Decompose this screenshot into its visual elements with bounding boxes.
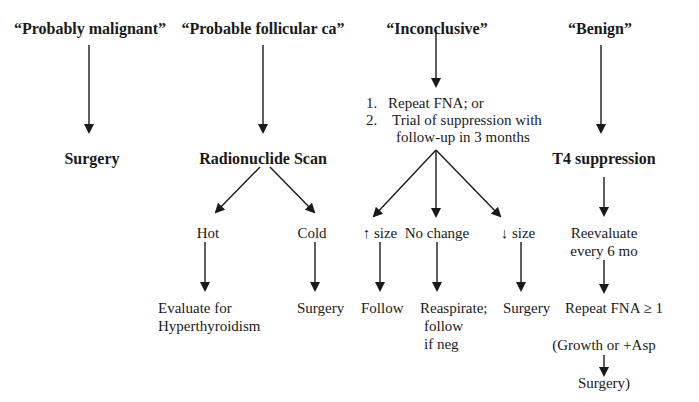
- node-reevaluate-line2: every 6 mo: [570, 243, 637, 260]
- node-t4-suppression: T4 suppression: [552, 150, 655, 167]
- option-2: 2.Trial of suppression with: [366, 112, 542, 129]
- node-hot: Hot: [197, 225, 220, 242]
- node-surgery-cold: Surgery: [297, 300, 344, 317]
- node-evaluate-line2: Hyperthyroidism: [158, 318, 261, 335]
- arrow-options-to-decrease: [436, 150, 500, 216]
- inconclusive-options-list: 1.Repeat FNA; or 2.Trial of suppression …: [366, 95, 542, 146]
- node-decrease-size: ↓ size: [501, 225, 536, 242]
- arrow-scan-to-hot: [216, 167, 260, 212]
- node-cold: Cold: [297, 225, 326, 242]
- node-surgery-benign: Surgery): [578, 375, 630, 392]
- node-surgery-decrease: Surgery: [503, 300, 550, 317]
- header-probably-malignant: “Probably malignant”: [14, 20, 166, 37]
- node-evaluate-line1: Evaluate for: [158, 300, 232, 317]
- option-2-cont: follow-up in 3 months: [366, 129, 542, 146]
- node-radionuclide-scan: Radionuclide Scan: [199, 150, 327, 167]
- thyroid-nodule-flowchart: “Probably malignant” “Probable follicula…: [0, 0, 699, 402]
- node-reevaluate-line1: Reevaluate: [571, 225, 638, 242]
- header-probable-follicular: “Probable follicular ca”: [182, 20, 345, 37]
- node-no-change: No change: [405, 225, 470, 242]
- header-benign: “Benign”: [568, 20, 632, 37]
- node-follow: Follow: [361, 300, 404, 317]
- node-reaspirate-line2: follow: [424, 318, 463, 335]
- node-growth-or-asp: (Growth or +Asp: [552, 337, 655, 354]
- node-increase-size: ↑ size: [363, 225, 398, 242]
- node-surgery-malignant: Surgery: [64, 150, 119, 167]
- node-reaspirate-line1: Reaspirate;: [420, 300, 487, 317]
- node-repeat-fna: Repeat FNA ≥ 1: [565, 300, 663, 317]
- arrow-scan-to-cold: [270, 167, 314, 212]
- header-inconclusive: “Inconclusive”: [386, 20, 487, 37]
- node-reaspirate-line3: if neg: [424, 336, 459, 353]
- option-1: 1.Repeat FNA; or: [366, 95, 542, 112]
- arrow-options-to-increase: [374, 150, 436, 216]
